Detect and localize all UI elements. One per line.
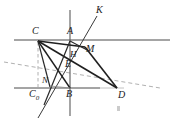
geometry-canvas (0, 0, 174, 130)
point-label-b: B (66, 89, 72, 99)
point-label-d: D (118, 90, 125, 100)
point-label-n: N (42, 75, 48, 85)
point-label-e: E (65, 59, 71, 69)
dashed-construction-line (4, 62, 160, 88)
point-label-c0-subscript: 0 (36, 94, 40, 102)
point-label-k: K (96, 5, 103, 15)
scan-artifact-speck (117, 106, 120, 111)
segment-c-d (38, 41, 117, 88)
point-label-c0: C0 (29, 89, 39, 103)
point-label-a: A (67, 26, 73, 36)
point-label-c0-main: C (29, 88, 36, 99)
point-label-m: M (86, 44, 94, 54)
geometry-figure: C A K M H E N C0 B D (0, 0, 174, 130)
point-label-c: C (32, 26, 39, 36)
